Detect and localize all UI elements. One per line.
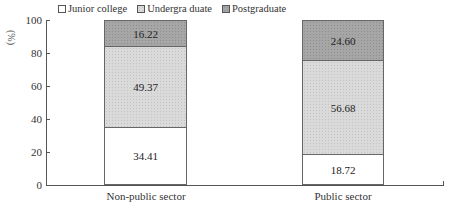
segment-junior-college: 34.41	[104, 127, 187, 185]
legend-swatch-junior-college	[58, 5, 66, 13]
legend-item-undergraduate: Undergra duate	[137, 3, 212, 15]
y-tick	[46, 86, 50, 87]
bar-non-public-sector: 16.22 49.37 34.41	[104, 20, 187, 185]
legend-label: Junior college	[68, 3, 127, 15]
legend-swatch-postgraduate	[222, 5, 230, 13]
segment-undergraduate: 56.68	[302, 60, 384, 155]
x-axis-end-tick	[443, 181, 444, 186]
bar-public-sector: 24.60 56.68 18.72	[302, 20, 384, 185]
segment-value: 24.60	[331, 35, 356, 47]
y-tick	[46, 53, 50, 54]
segment-value: 56.68	[331, 102, 356, 114]
y-tick-label-80: 80	[10, 47, 42, 59]
y-tick-label-20: 20	[10, 146, 42, 158]
segment-value: 16.22	[133, 28, 158, 40]
legend-label: Undergra duate	[147, 3, 212, 15]
x-axis	[46, 185, 444, 186]
y-tick	[46, 152, 50, 153]
y-tick	[46, 119, 50, 120]
segment-postgraduate: 16.22	[104, 20, 187, 47]
y-axis	[46, 20, 47, 186]
segment-undergraduate: 49.37	[104, 46, 187, 128]
legend-item-junior-college: Junior college	[58, 3, 127, 15]
segment-value: 34.41	[133, 150, 158, 162]
legend-item-postgraduate: Postgraduate	[222, 3, 286, 15]
segment-junior-college: 18.72	[302, 154, 384, 185]
x-category-label-public: Public sector	[293, 190, 393, 202]
y-tick	[46, 185, 50, 186]
legend-label: Postgraduate	[232, 3, 286, 15]
segment-postgraduate: 24.60	[302, 20, 384, 61]
segment-value: 49.37	[133, 81, 158, 93]
legend: Junior college Undergra duate Postgradua…	[58, 3, 286, 15]
y-tick-label-100: 100	[10, 14, 42, 26]
segment-value: 18.72	[331, 164, 356, 176]
y-tick	[46, 20, 50, 21]
y-tick-label-0: 0	[10, 179, 42, 191]
y-tick-label-40: 40	[10, 113, 42, 125]
legend-swatch-undergraduate	[137, 5, 145, 13]
y-tick-label-60: 60	[10, 80, 42, 92]
x-category-label-non-public: Non-public sector	[96, 190, 196, 202]
